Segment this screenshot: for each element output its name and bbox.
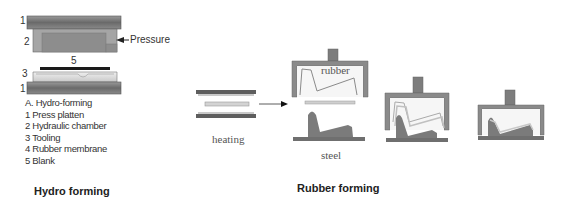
- process-arrow-icon: [259, 100, 289, 108]
- legend-item: 3 Tooling: [25, 132, 107, 144]
- label-part-3: 3: [22, 68, 28, 79]
- rubber-label: rubber: [321, 64, 350, 76]
- legend-item: A. Hydro-forming: [25, 97, 107, 109]
- stage-formed-diagram: [470, 80, 550, 150]
- stage-heating-diagram: [190, 80, 260, 140]
- bottom-press-platen: [27, 82, 121, 94]
- hydro-forming-press-diagram: [0, 0, 130, 90]
- legend-item: 2 Hydraulic chamber: [25, 120, 107, 132]
- stage-pressing-diagram: [380, 70, 460, 150]
- rubber-forming-caption: Rubber forming: [297, 182, 380, 194]
- legend-item: 5 Blank: [25, 155, 107, 167]
- hydro-forming-caption: Hydro forming: [34, 185, 110, 197]
- pressure-label: Pressure: [130, 34, 170, 45]
- steel-label: steel: [321, 149, 341, 161]
- hydro-forming-legend: A. Hydro-forming 1 Press platten 2 Hydra…: [25, 97, 107, 167]
- stage-setup-diagram: [290, 45, 370, 155]
- top-press-platen: [27, 16, 121, 29]
- legend-item: 1 Press platten: [25, 109, 107, 121]
- blank: [40, 67, 110, 70]
- label-part-1-top: 1: [20, 15, 26, 26]
- label-part-5: 5: [71, 55, 77, 66]
- label-part-1-bottom: 1: [20, 83, 26, 94]
- heating-label: heating: [212, 133, 244, 145]
- label-part-2: 2: [24, 36, 30, 47]
- legend-item: 4 Rubber membrane: [25, 143, 107, 155]
- tooling: [33, 72, 117, 82]
